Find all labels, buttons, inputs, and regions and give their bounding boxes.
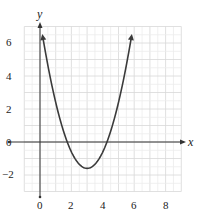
x-tick-labels: 0 2 4 6 8 (37, 199, 169, 211)
x-tick-0: 0 (37, 199, 43, 211)
x-axis-arrow-icon (180, 140, 186, 145)
grid (24, 27, 181, 192)
axes (8, 22, 186, 198)
y-tick-neg2: −2 (2, 168, 14, 180)
y-tick-6: 6 (6, 36, 12, 48)
x-tick-8: 8 (163, 199, 169, 211)
y-tick-labels: 6 4 2 0 −2 (2, 36, 14, 180)
x-tick-2: 2 (68, 199, 74, 211)
x-tick-4: 4 (100, 199, 106, 211)
y-axis-arrow-icon (38, 22, 43, 28)
y-tick-4: 4 (6, 70, 12, 82)
x-tick-6: 6 (131, 199, 137, 211)
y-tick-0: 0 (6, 136, 12, 148)
chart: x y 0 2 4 6 8 6 4 2 0 −2 (0, 0, 203, 213)
y-tick-2: 2 (6, 103, 12, 115)
x-axis-label: x (187, 135, 194, 149)
y-axis-label: y (36, 7, 43, 21)
y-axis-end-dot (39, 196, 42, 199)
